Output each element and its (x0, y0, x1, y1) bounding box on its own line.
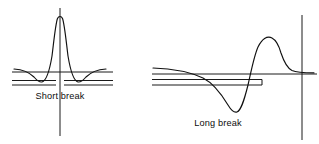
panel-long-break: Long break (152, 15, 317, 140)
short-break-marker (12, 81, 113, 86)
short-break-caption: Short break (35, 91, 84, 101)
panel-short-break: Short break (12, 8, 113, 136)
figure-canvas: Short break Long break (0, 0, 319, 144)
long-break-caption: Long break (194, 118, 242, 128)
long-break-lineshape-trace (153, 37, 314, 112)
nmr-lineshape-figure: Short break Long break (0, 0, 319, 144)
